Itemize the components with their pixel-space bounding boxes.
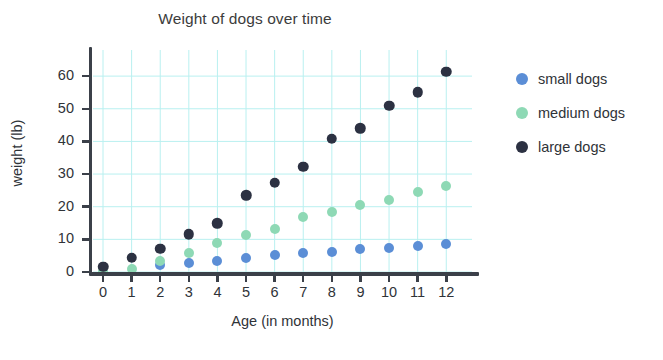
x-tick-label: 11 (403, 284, 433, 300)
y-tick-label: 60 (38, 67, 74, 83)
x-tick-label: 10 (374, 284, 404, 300)
y-axis-title: weight (lb) (9, 93, 25, 213)
legend-item-label: medium dogs (538, 105, 625, 121)
legend-item-label: large dogs (538, 139, 606, 155)
legend-item[interactable]: medium dogs (516, 96, 625, 130)
data-point (98, 262, 109, 273)
data-point (441, 181, 451, 191)
data-point (384, 195, 394, 205)
data-point (327, 207, 337, 217)
data-point (269, 177, 280, 188)
data-point (184, 229, 195, 240)
data-point (184, 248, 194, 258)
data-point (212, 256, 222, 266)
y-tick-mark (82, 205, 91, 208)
x-tick-label: 4 (202, 284, 232, 300)
y-tick-label: 30 (38, 165, 74, 181)
y-tick-label: 40 (38, 132, 74, 148)
y-tick-label: 20 (38, 198, 74, 214)
data-point (184, 258, 194, 268)
data-point (298, 162, 309, 173)
data-point (384, 100, 395, 111)
x-tick-mark (159, 274, 162, 282)
y-tick-mark (82, 108, 91, 111)
x-tick-label: 7 (288, 284, 318, 300)
data-point (212, 218, 223, 229)
x-axis-line (89, 272, 479, 276)
data-point (155, 244, 166, 255)
x-tick-mark (331, 274, 334, 282)
y-tick-mark (82, 238, 91, 241)
x-tick-mark (216, 274, 219, 282)
data-point (327, 247, 337, 257)
x-tick-mark (188, 274, 191, 282)
data-point (384, 243, 394, 253)
x-tick-label: 2 (145, 284, 175, 300)
x-tick-mark (102, 274, 105, 282)
data-point (241, 253, 251, 263)
data-points-layer (93, 50, 472, 272)
x-tick-label: 1 (117, 284, 147, 300)
x-tick-label: 3 (174, 284, 204, 300)
data-point (126, 252, 137, 263)
x-tick-mark (416, 274, 419, 282)
legend-marker-icon (516, 107, 528, 119)
y-tick-mark (82, 75, 91, 78)
legend-marker-icon (516, 73, 528, 85)
x-axis-title: Age (in months) (93, 313, 472, 329)
data-point (441, 239, 451, 249)
data-point (355, 200, 365, 210)
y-tick-mark (82, 271, 91, 274)
plot-area (93, 50, 472, 272)
chart-title: Weight of dogs over time (0, 10, 490, 28)
x-tick-mark (302, 274, 305, 282)
data-point (270, 224, 280, 234)
data-point (270, 250, 280, 260)
x-tick-mark (445, 274, 448, 282)
y-tick-label: 50 (38, 100, 74, 116)
data-point (355, 123, 366, 134)
data-point (441, 67, 452, 78)
data-point (212, 238, 222, 248)
data-point (413, 187, 423, 197)
x-tick-label: 6 (260, 284, 290, 300)
legend-item[interactable]: large dogs (516, 130, 625, 164)
data-point (241, 190, 252, 201)
x-tick-mark (388, 274, 391, 282)
x-tick-mark (359, 274, 362, 282)
legend-item-label: small dogs (538, 71, 607, 87)
x-tick-mark (273, 274, 276, 282)
legend-item[interactable]: small dogs (516, 62, 625, 96)
data-point (298, 212, 308, 222)
y-axis-line (89, 47, 92, 275)
y-tick-label: 0 (38, 263, 74, 279)
x-tick-mark (130, 274, 133, 282)
data-point (298, 248, 308, 258)
y-tick-mark (82, 173, 91, 176)
x-tick-label: 5 (231, 284, 261, 300)
data-point (355, 244, 365, 254)
x-tick-label: 12 (431, 284, 461, 300)
chart-legend: small dogsmedium dogslarge dogs (516, 62, 625, 164)
legend-marker-icon (516, 141, 528, 153)
x-tick-mark (245, 274, 248, 282)
data-point (241, 230, 251, 240)
x-tick-label: 8 (317, 284, 347, 300)
y-tick-mark (82, 140, 91, 143)
data-point (155, 256, 165, 266)
y-tick-label: 10 (38, 230, 74, 246)
data-point (327, 134, 338, 145)
data-point (412, 87, 423, 98)
x-tick-label: 0 (88, 284, 118, 300)
x-tick-label: 9 (345, 284, 375, 300)
chart-figure: Weight of dogs over time 0102030405060 0… (0, 0, 663, 360)
data-point (413, 241, 423, 251)
